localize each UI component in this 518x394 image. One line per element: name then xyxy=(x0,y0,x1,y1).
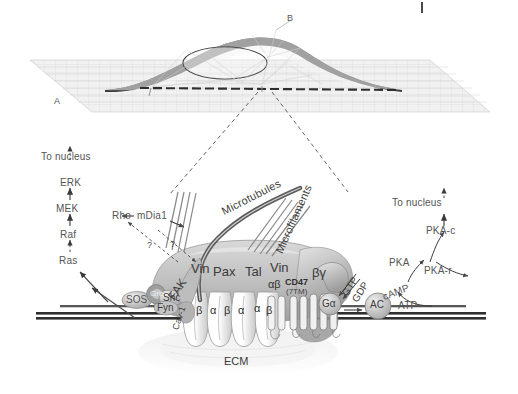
g-beta-gamma-label: βγ xyxy=(312,266,326,279)
integrin-subunit-4: α xyxy=(238,305,244,316)
cell-label-a: A xyxy=(54,97,60,106)
pka-r-label: PKA-r xyxy=(424,266,452,276)
integrin-subunit-5: α xyxy=(254,303,260,314)
mdia1-label: mDia1 xyxy=(137,211,167,221)
mapk-to-nucleus: To nucleus xyxy=(41,152,91,162)
crop-tick-mark xyxy=(421,2,423,13)
mapk-step-ras: Ras xyxy=(59,256,77,266)
integrin-pair-label: αβ xyxy=(268,279,281,290)
pka-to-nucleus: To nucleus xyxy=(392,198,442,208)
vinculin-right-label: Vin xyxy=(270,261,289,274)
ecm-label: ECM xyxy=(224,356,248,367)
pka-label: PKA xyxy=(389,258,410,268)
talin-label: Tal xyxy=(245,265,262,278)
g-alpha-label: Gα xyxy=(322,299,336,309)
mapk-step-raf: Raf xyxy=(60,230,76,240)
cell-label-b: B xyxy=(287,14,293,23)
figure-canvas: A B To nucleus ERK MEK Raf Ras Rho mDia1… xyxy=(0,0,518,394)
rho-label: Rho xyxy=(112,211,131,221)
cd47-sublabel: (7TM) xyxy=(286,288,307,296)
adenylyl-cyclase-label: AC xyxy=(370,300,384,310)
pka-c-label: PKA-c xyxy=(426,226,455,236)
rho-question-right: ? xyxy=(170,240,175,249)
mapk-step-erk: ERK xyxy=(60,178,81,188)
cd47-label: CD47 xyxy=(285,278,308,287)
integrin-subunit-6: β xyxy=(266,305,272,316)
integrin-subunit-1: β xyxy=(196,305,202,316)
sos-label: SOS xyxy=(126,295,147,305)
mapk-arrows xyxy=(70,146,135,318)
rho-question-left: ? xyxy=(147,241,152,250)
paxillin-label: Pax xyxy=(213,265,235,278)
fyn-label: Fyn xyxy=(157,303,174,313)
mapk-step-mek: MEK xyxy=(56,204,78,214)
atp-label: ATP xyxy=(398,301,417,311)
vinculin-left-label: Vin xyxy=(191,262,210,275)
integrin-subunit-2: α xyxy=(210,305,216,316)
integrin-subunit-3: β xyxy=(224,305,230,316)
